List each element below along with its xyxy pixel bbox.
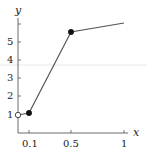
y-tick-label-3: 3 xyxy=(7,72,13,83)
chart: y x 5 4 3 2 1 0.1 0.5 1 xyxy=(0,0,147,151)
y-axis-label: y xyxy=(14,4,22,17)
y-tick-label-2: 2 xyxy=(7,90,13,101)
y-tick-label-1: 1 xyxy=(7,109,13,120)
y-tick-label-5: 5 xyxy=(7,36,13,47)
x-tick-label-1: 1 xyxy=(121,138,127,149)
filled-point-marker xyxy=(68,29,73,34)
x-axis-label: x xyxy=(133,126,140,139)
x-tick-label-0.5: 0.5 xyxy=(63,138,79,149)
y-tick-label-4: 4 xyxy=(7,54,13,65)
data-line xyxy=(18,23,124,115)
open-point-marker xyxy=(15,112,20,117)
x-tick-label-0.1: 0.1 xyxy=(22,138,38,149)
filled-point-marker xyxy=(26,110,31,115)
y-ticks: 5 4 3 2 1 xyxy=(7,24,21,120)
